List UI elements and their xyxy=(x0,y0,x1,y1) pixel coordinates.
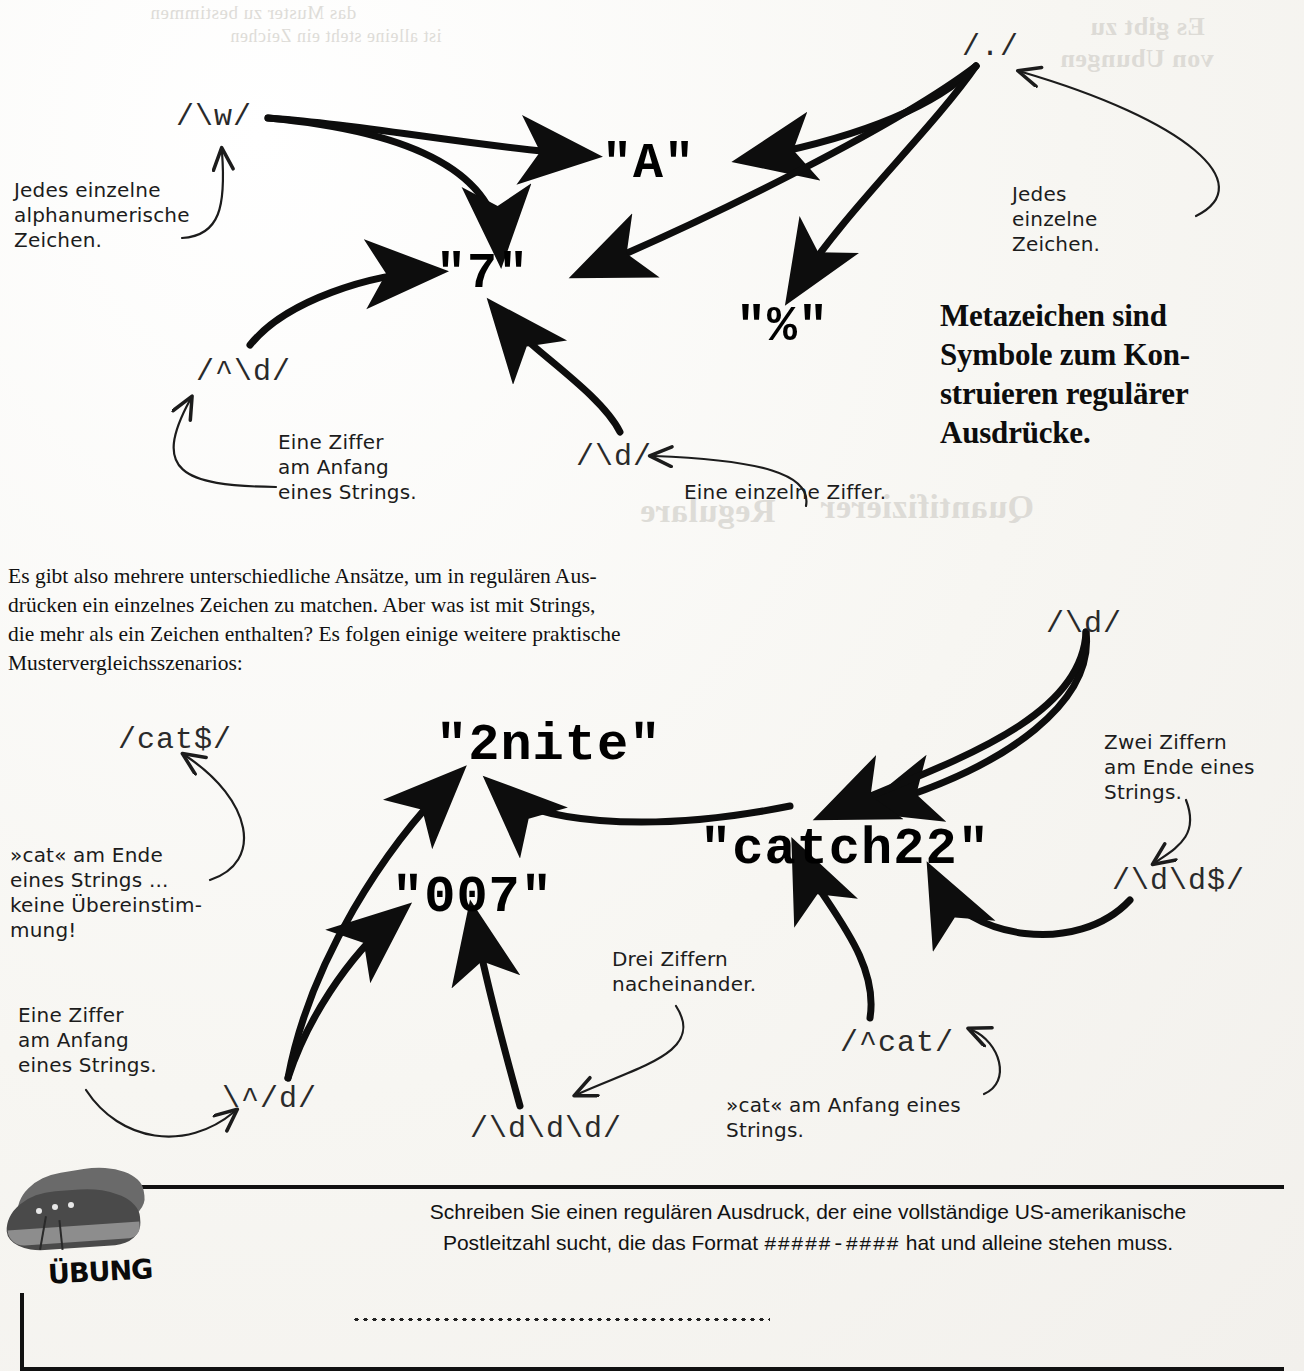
body-paragraph: Es gibt also mehrere unterschiedliche An… xyxy=(8,562,708,678)
note-single-digit: Eine einzelne Ziffer. xyxy=(684,480,886,505)
exercise-bottom-rule xyxy=(20,1367,1284,1371)
metacharacter-callout: Metazeichen sind Symbole zum Kon- struie… xyxy=(940,296,1190,452)
exercise-instruction: Schreiben Sie einen regulären Ausdruck, … xyxy=(398,1196,1218,1260)
note-any-char: Jedes einzelne Zeichen. xyxy=(1012,182,1100,257)
note-digit-start-alt: Eine Ziffer am Anfang eines Strings. xyxy=(18,1003,157,1078)
exercise-text-after: hat und alleine stehen muss. xyxy=(900,1231,1173,1254)
running-shoes-icon xyxy=(6,1164,156,1264)
exercise-left-rule xyxy=(20,1293,24,1371)
note-digit-at-start: Eine Ziffer am Anfang eines Strings. xyxy=(278,430,417,505)
note-two-digits-end: Zwei Ziffern am Ende eines Strings. xyxy=(1104,730,1255,805)
shoe-eyelet xyxy=(36,1208,42,1214)
exercise-answer-line[interactable] xyxy=(352,1318,770,1321)
shoe-eyelet xyxy=(68,1202,74,1208)
exercise-format: #####-#### xyxy=(764,1233,900,1256)
note-word-char: Jedes einzelne alphanumerische Zeichen. xyxy=(14,178,190,253)
note-cat-at-end: »cat« am Ende eines Strings ... keine Üb… xyxy=(10,843,202,943)
note-cat-at-start: »cat« am Anfang eines Strings. xyxy=(726,1093,961,1143)
book-page: das Muster zu bestimmen ist alleine steh… xyxy=(0,0,1304,1371)
exercise-top-rule xyxy=(134,1185,1284,1189)
note-three-digits: Drei Ziffern nacheinander. xyxy=(612,947,756,997)
handwritten-note-layer: Jedes einzelne alphanumerische Zeichen. … xyxy=(0,0,1304,1371)
shoe-eyelet xyxy=(52,1204,58,1210)
exercise-label: ÜBUNG xyxy=(47,1253,153,1289)
